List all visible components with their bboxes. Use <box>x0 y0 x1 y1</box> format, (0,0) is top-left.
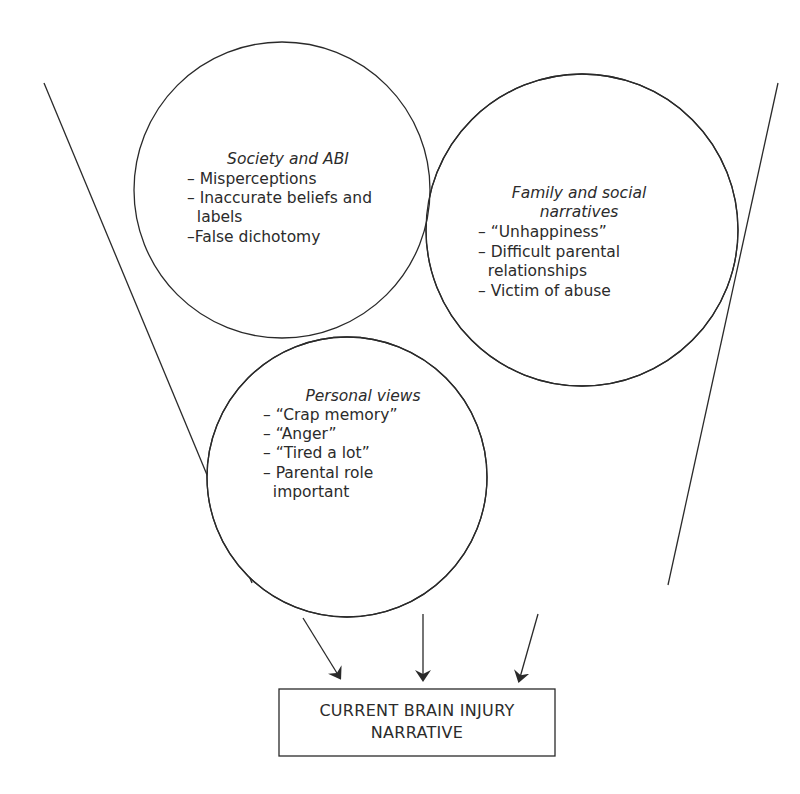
society-item: labels <box>187 208 242 226</box>
arrow-left-icon <box>303 618 340 678</box>
personal-title: Personal views <box>305 387 420 405</box>
personal-item: important <box>263 483 349 501</box>
family-item: – Victim of abuse <box>478 282 611 300</box>
family-item: relationships <box>478 262 587 280</box>
society-title: Society and ABI <box>227 150 349 168</box>
society-item: –False dichotomy <box>187 228 320 246</box>
society-item: – Misperceptions <box>187 170 317 188</box>
brain-injury-narrative-diagram: Society and ABI – Misperceptions – Inacc… <box>0 0 800 794</box>
personal-item: – Parental role <box>263 464 373 482</box>
personal-item: – “Crap memory” <box>263 406 397 424</box>
arrow-right-icon <box>519 614 538 681</box>
output-box-line2: NARRATIVE <box>371 723 463 742</box>
family-title-line1: Family and social <box>512 184 647 202</box>
society-item: – Inaccurate beliefs and <box>187 189 372 207</box>
output-box-line1: CURRENT BRAIN INJURY <box>319 701 514 720</box>
personal-item: – “Anger” <box>263 425 337 443</box>
family-item: – “Unhappiness” <box>478 223 607 241</box>
personal-item: – “Tired a lot” <box>263 444 370 462</box>
family-item: – Difficult parental <box>478 243 620 261</box>
family-title-line2: narratives <box>540 203 619 221</box>
